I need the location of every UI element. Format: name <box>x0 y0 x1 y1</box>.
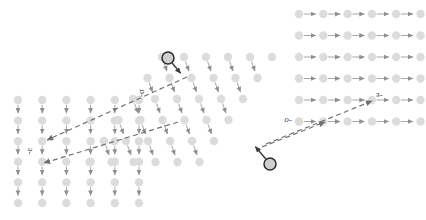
lattice-node <box>180 53 188 61</box>
lattice-node <box>135 178 143 186</box>
lattice-node <box>62 96 70 104</box>
lattice-node <box>14 178 22 186</box>
lattice-node <box>202 53 210 61</box>
lattice-arrow <box>128 146 131 156</box>
lattice-node <box>158 116 166 124</box>
lattice-node <box>319 31 327 39</box>
lattice-node <box>392 117 400 125</box>
lattice-node <box>343 31 351 39</box>
lattice-node <box>295 10 303 18</box>
lattice-node <box>114 116 122 124</box>
lattice-node <box>135 199 143 207</box>
lattice-node <box>253 74 261 82</box>
lattice-node <box>319 96 327 104</box>
lattice-arrow <box>223 104 226 114</box>
lattice-node <box>86 116 94 124</box>
lattice-node <box>111 178 119 186</box>
epsilon-left-label: -ε <box>24 147 34 154</box>
lattice-node <box>368 53 376 61</box>
lattice-node <box>86 178 94 186</box>
lattice-node <box>217 95 225 103</box>
lattice-node <box>368 96 376 104</box>
lattice-node <box>62 199 70 207</box>
lattice-arrow <box>208 62 211 72</box>
lattice-node <box>166 137 174 145</box>
sigma-right-label: -σ <box>284 116 292 126</box>
lattice-node <box>239 95 247 103</box>
lattice-node <box>202 116 210 124</box>
lattice-node <box>392 31 400 39</box>
lattice-arrow <box>201 104 204 114</box>
lattice-node <box>319 53 327 61</box>
lattice-node <box>62 178 70 186</box>
lattice-arrow <box>186 125 189 135</box>
lattice-arrow <box>172 146 175 156</box>
lattice-node <box>62 158 70 166</box>
lattice-arrow <box>149 83 152 93</box>
lattice-arrow <box>230 62 233 72</box>
lattice-node <box>85 158 93 166</box>
highlight-node-top[interactable] <box>162 52 174 64</box>
lattice-node <box>416 31 424 39</box>
lattice-node <box>343 74 351 82</box>
lattice-node <box>295 31 303 39</box>
epsilon-right <box>262 122 325 147</box>
grids-layer <box>14 10 425 207</box>
lattice-node <box>209 74 217 82</box>
lattice-node <box>195 95 203 103</box>
sigma-right <box>266 101 372 144</box>
highlight-node-bottom-arrow <box>255 147 265 159</box>
lattice-node <box>416 10 424 18</box>
lattice-node <box>295 117 303 125</box>
lattice-node <box>111 96 119 104</box>
lattice-arrow <box>150 146 153 156</box>
lattice-node <box>319 74 327 82</box>
lattice-node <box>129 158 137 166</box>
right-grid <box>295 10 425 126</box>
lattice-node <box>416 53 424 61</box>
lattice-node <box>86 137 94 145</box>
lattice-node <box>392 53 400 61</box>
lattice-node <box>100 137 108 145</box>
highlight-node-bottom[interactable] <box>264 158 276 170</box>
lattice-node <box>62 116 70 124</box>
lattice-diagram-canvas: -σ-ε-σ-ε <box>0 0 426 220</box>
lattice-node <box>86 96 94 104</box>
lattice-node <box>38 96 46 104</box>
lattice-node <box>210 137 218 145</box>
lattice-node <box>135 137 143 145</box>
lattice-node <box>38 199 46 207</box>
lattice-node <box>343 96 351 104</box>
lattice-arrow <box>194 146 197 156</box>
lattice-arrow <box>237 83 240 93</box>
lattice-node <box>14 116 22 124</box>
lattice-arrow <box>186 62 189 72</box>
lattice-node <box>173 95 181 103</box>
lattice-node <box>416 74 424 82</box>
lattice-node <box>368 31 376 39</box>
lattice-node <box>14 137 22 145</box>
lattice-node <box>295 53 303 61</box>
highlight-node-top-arrow <box>172 63 180 73</box>
lattice-node <box>143 74 151 82</box>
lattice-node <box>38 178 46 186</box>
lattice-node <box>180 116 188 124</box>
lattice-node <box>319 10 327 18</box>
lattice-node <box>187 74 195 82</box>
lattice-node <box>151 158 159 166</box>
lattice-node <box>246 53 254 61</box>
lattice-node <box>144 137 152 145</box>
lattice-node <box>111 137 119 145</box>
lattice-arrow <box>193 83 196 93</box>
lattice-node <box>62 137 70 145</box>
lattice-node <box>173 158 181 166</box>
lattice-node <box>416 117 424 125</box>
lattice-node <box>14 199 22 207</box>
lattice-node <box>14 158 22 166</box>
lattice-node <box>392 96 400 104</box>
lattice-node <box>368 74 376 82</box>
sigma-left-label: -σ <box>136 89 146 97</box>
lattice-arrow <box>135 104 138 114</box>
lattice-node <box>188 137 196 145</box>
lattice-node <box>38 116 46 124</box>
